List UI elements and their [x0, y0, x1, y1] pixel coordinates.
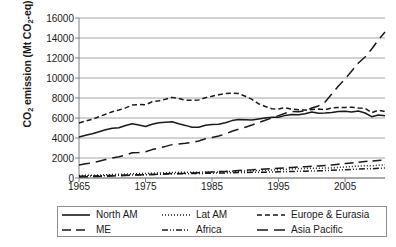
legend-item-me[interactable]: ME: [61, 225, 161, 235]
x-tick-label: 1975: [134, 181, 156, 192]
legend-swatch-dashed: [256, 210, 286, 220]
legend-swatch-solid: [61, 210, 91, 220]
legend-label: Africa: [196, 225, 222, 235]
legend-item-asia-pacific[interactable]: Asia Pacific: [256, 225, 391, 235]
x-tick-label: 1985: [201, 181, 223, 192]
legend-swatch-dashdot: [161, 225, 191, 235]
x-tick-label: 2005: [334, 181, 356, 192]
series-line-north-am: [79, 111, 385, 137]
legend-swatch-longdash: [61, 225, 91, 235]
legend-label: ME: [96, 225, 111, 235]
legend-label: Asia Pacific: [291, 225, 343, 235]
chart-legend: North AMLat AMEurope & EurasiaMEAfricaAs…: [57, 206, 387, 237]
legend-label: Lat AM: [196, 210, 227, 220]
legend-item-africa[interactable]: Africa: [161, 225, 256, 235]
legend-item-europe-eurasia[interactable]: Europe & Eurasia: [256, 210, 391, 220]
legend-item-lat-am[interactable]: Lat AM: [161, 210, 256, 220]
legend-label: North AM: [96, 210, 138, 220]
legend-swatch-dotted: [161, 210, 191, 220]
legend-item-north-am[interactable]: North AM: [61, 210, 161, 220]
legend-swatch-mediumdash: [256, 225, 286, 235]
chart-figure: CO2 emission (Mt CO2-eq) 160001400012000…: [0, 0, 396, 247]
x-tick-label: 1965: [68, 181, 90, 192]
x-tick-label: 1995: [267, 181, 289, 192]
legend-label: Europe & Eurasia: [291, 210, 369, 220]
